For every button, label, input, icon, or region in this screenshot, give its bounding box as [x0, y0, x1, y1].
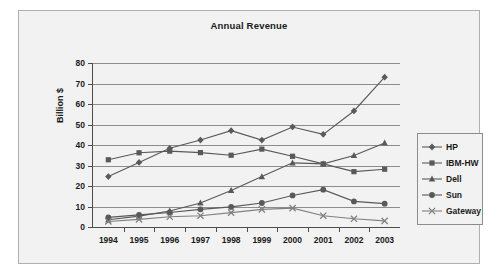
square-marker — [290, 154, 295, 159]
series-line — [108, 190, 384, 218]
x-axis-tick — [369, 227, 370, 232]
circle-marker — [320, 187, 326, 193]
x-axis-tick-label: 1994 — [99, 235, 118, 245]
series-line — [108, 149, 384, 172]
square-marker — [198, 150, 203, 155]
legend-key-circle-icon — [421, 188, 443, 202]
square-marker — [351, 169, 356, 174]
plot-area: 01020304050607080 1994199519961997199819… — [92, 63, 400, 228]
diamond-marker — [136, 159, 142, 166]
circle-marker — [259, 200, 265, 206]
legend-item-hp[interactable]: HP — [421, 139, 478, 155]
y-axis-tick-label: 30 — [76, 161, 85, 171]
triangle-marker — [381, 140, 387, 146]
series-hp — [105, 74, 388, 180]
triangle-marker — [228, 187, 234, 193]
legend-item-gateway[interactable]: Gateway — [421, 203, 478, 219]
y-axis-title: Billion $ — [55, 88, 65, 123]
diamond-marker — [228, 127, 234, 134]
diamond-marker — [429, 144, 435, 151]
legend-item-label: HP — [446, 142, 458, 152]
y-axis-tick-label: 80 — [76, 58, 85, 68]
series-ibm-hw — [106, 147, 388, 175]
x-axis-tick — [277, 227, 278, 232]
chart-title: Annual Revenue — [19, 20, 479, 31]
circle-marker — [228, 204, 234, 210]
y-axis-tick-label: 40 — [76, 140, 85, 150]
legend-item-label: IBM-HW — [446, 158, 479, 168]
x-axis-tick-label: 1999 — [252, 235, 271, 245]
legend-key-diamond-icon — [421, 140, 443, 154]
y-axis-tick-label: 60 — [76, 99, 85, 109]
y-axis-tick — [88, 227, 93, 228]
y-axis-tick-label: 10 — [76, 202, 85, 212]
legend-item-dell[interactable]: Dell — [421, 171, 478, 187]
x-axis-tick-label: 1998 — [222, 235, 241, 245]
y-axis-tick-label: 20 — [76, 181, 85, 191]
legend-key-triangle-icon — [421, 172, 443, 186]
diamond-marker — [105, 173, 111, 180]
square-marker — [259, 147, 264, 152]
series-sun — [105, 187, 387, 220]
legend-item-label: Sun — [446, 190, 462, 200]
x-axis-tick — [308, 227, 309, 232]
circle-marker — [351, 198, 357, 204]
x-axis-tick-label: 1996 — [160, 235, 179, 245]
x-axis-tick-label: 2002 — [344, 235, 363, 245]
diamond-marker — [289, 124, 295, 131]
square-marker — [429, 160, 434, 165]
legend-item-ibm-hw[interactable]: IBM-HW — [421, 155, 478, 171]
diamond-marker — [259, 137, 265, 144]
x-axis-tick — [216, 227, 217, 232]
circle-marker — [290, 193, 296, 199]
x-axis-tick — [154, 227, 155, 232]
circle-marker — [198, 206, 204, 212]
legend-key-x-icon — [421, 204, 443, 218]
diamond-marker — [197, 137, 203, 144]
x-axis-tick — [185, 227, 186, 232]
legend-item-sun[interactable]: Sun — [421, 187, 478, 203]
x-axis-tick-label: 2001 — [314, 235, 333, 245]
series-line — [108, 77, 384, 176]
square-marker — [136, 150, 141, 155]
circle-marker — [429, 192, 435, 198]
series-line — [108, 143, 384, 220]
square-marker — [167, 149, 172, 154]
legend-key-square-icon — [421, 156, 443, 170]
chart-frame: Annual Revenue Billion $ 010203040506070… — [18, 10, 480, 264]
legend-item-label: Dell — [446, 174, 462, 184]
x-axis-tick — [247, 227, 248, 232]
y-axis-tick-label: 0 — [80, 222, 85, 232]
series-layer — [93, 63, 400, 227]
x-axis-tick-label: 2003 — [375, 235, 394, 245]
y-axis-tick-label: 70 — [76, 79, 85, 89]
circle-marker — [382, 201, 388, 207]
x-axis-tick-label: 1995 — [130, 235, 149, 245]
y-axis-tick-label: 50 — [76, 120, 85, 130]
square-marker — [106, 157, 111, 162]
legend-item-label: Gateway — [446, 206, 481, 216]
x-axis-tick — [124, 227, 125, 232]
x-axis-tick — [339, 227, 340, 232]
chart-legend: HPIBM-HWDellSunGateway — [417, 133, 483, 225]
square-marker — [382, 167, 387, 172]
x-axis-tick-label: 2000 — [283, 235, 302, 245]
square-marker — [229, 153, 234, 158]
x-axis-tick-label: 1997 — [191, 235, 210, 245]
